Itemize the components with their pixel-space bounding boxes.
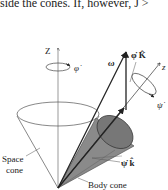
label-omega: ω [108, 58, 115, 68]
label-space-cone-line2: cone [6, 165, 23, 175]
body-cone [58, 109, 139, 188]
label-body-cone: Body cone [88, 180, 127, 190]
label-phi-dot-K: φ̇ K̂ [131, 50, 146, 60]
label-psi-dot-k: ψ̇ k̂ [121, 157, 134, 168]
label-body-axis-z: z [161, 62, 166, 72]
cone-diagram: Z φ̇ z ψ̇ ω φ̇ K̂ Space cone ψ̇ k̂ Body … [0, 0, 168, 190]
label-psi-dot: ψ̇ [157, 100, 166, 110]
space-z-axis [46, 48, 70, 188]
label-space-cone-line1: Space [2, 154, 24, 164]
label-phi-dot: φ̇ [74, 63, 82, 73]
label-space-axis-Z: Z [45, 46, 51, 56]
